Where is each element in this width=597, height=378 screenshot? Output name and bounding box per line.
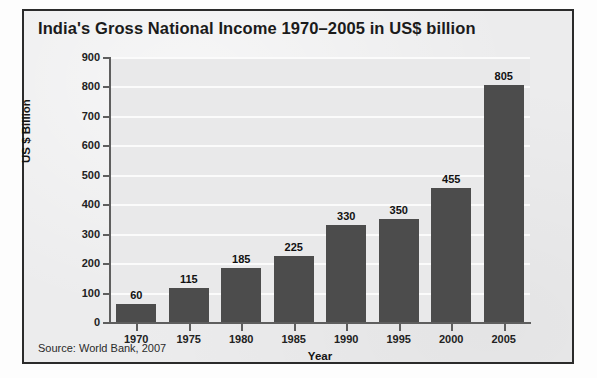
y-axis-title: US $ Billion (20, 99, 32, 163)
x-axis-tick (504, 324, 506, 331)
x-axis-tick-label: 1995 (369, 333, 429, 345)
y-axis-tick-label: 0 (66, 316, 100, 328)
gridline (110, 57, 530, 59)
x-axis-title: Year (110, 350, 530, 362)
bar-value-label: 115 (159, 273, 219, 285)
bar-value-label: 225 (264, 241, 324, 253)
x-axis-tick-label: 2000 (421, 333, 481, 345)
x-axis-tick (136, 324, 138, 331)
x-axis-tick-label: 1975 (159, 333, 219, 345)
bar (431, 188, 471, 322)
y-axis-line (109, 57, 111, 323)
x-axis-tick-label: 1990 (316, 333, 376, 345)
y-axis-tick (103, 57, 110, 59)
y-axis-tick-label: 500 (66, 169, 100, 181)
x-axis-tick-label: 2005 (474, 333, 534, 345)
chart-page: India's Gross National Income 1970–2005 … (0, 0, 597, 378)
y-axis-tick-label: 200 (66, 257, 100, 269)
y-axis-tick (103, 263, 110, 265)
x-axis-tick-label: 1980 (211, 333, 271, 345)
x-axis-tick (346, 324, 348, 331)
y-axis-tick-labels: 0100200300400500600700800900 (60, 11, 100, 378)
figure-frame: India's Gross National Income 1970–2005 … (22, 9, 574, 364)
gridline (110, 86, 530, 88)
source-note: Source: World Bank, 2007 (38, 342, 166, 354)
y-axis-tick-label: 700 (66, 110, 100, 122)
bar (116, 304, 156, 322)
y-axis-tick (103, 204, 110, 206)
gridline (110, 116, 530, 118)
y-axis-tick (103, 234, 110, 236)
x-axis-tick (399, 324, 401, 331)
x-axis-tick-label: 1985 (264, 333, 324, 345)
y-axis-tick (103, 116, 110, 118)
y-axis-tick-label: 900 (66, 51, 100, 63)
y-axis-tick (103, 145, 110, 147)
y-axis-tick-label: 800 (66, 80, 100, 92)
bar (221, 268, 261, 322)
x-axis-tick (241, 324, 243, 331)
x-axis-tick (451, 324, 453, 331)
bar-value-label: 60 (106, 289, 166, 301)
bar-value-label: 185 (211, 253, 271, 265)
y-axis-tick (103, 175, 110, 177)
bar-value-label: 455 (421, 173, 481, 185)
bar (274, 256, 314, 322)
y-axis-tick-label: 400 (66, 198, 100, 210)
x-axis-tick (189, 324, 191, 331)
y-axis-tick-label: 600 (66, 139, 100, 151)
bar-value-label: 805 (474, 70, 534, 82)
y-axis-tick-label: 300 (66, 228, 100, 240)
bar (326, 225, 366, 322)
y-axis-tick-label: 100 (66, 287, 100, 299)
bar (169, 288, 209, 322)
bar (379, 219, 419, 322)
y-axis-tick (103, 86, 110, 88)
y-axis-tick (103, 322, 110, 324)
chart-title: India's Gross National Income 1970–2005 … (38, 19, 476, 38)
x-axis-line (109, 322, 531, 324)
bar-value-label: 330 (316, 210, 376, 222)
x-axis-tick (294, 324, 296, 331)
bar (484, 85, 524, 322)
bar-value-label: 350 (369, 204, 429, 216)
gridline (110, 145, 530, 147)
